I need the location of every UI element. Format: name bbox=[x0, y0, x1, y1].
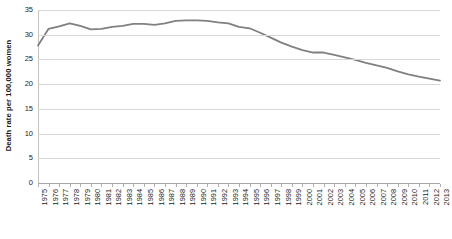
x-tick-label: 2004 bbox=[348, 189, 355, 205]
plot-area bbox=[38, 10, 440, 183]
x-tick-label: 1975 bbox=[41, 189, 48, 205]
x-tick-label: 1993 bbox=[232, 189, 239, 205]
x-tick-label: 2007 bbox=[380, 189, 387, 205]
x-tick-label: 1987 bbox=[168, 189, 175, 205]
x-tick-label: 2003 bbox=[337, 189, 344, 205]
x-tick-mark bbox=[292, 184, 293, 187]
x-tick-label: 1984 bbox=[136, 189, 143, 205]
x-tick-label: 2001 bbox=[316, 189, 323, 205]
x-tick-label: 1977 bbox=[62, 189, 69, 205]
x-tick-label: 1988 bbox=[179, 189, 186, 205]
x-tick-mark bbox=[133, 184, 134, 187]
death-rate-line bbox=[38, 20, 440, 80]
gridline bbox=[38, 158, 440, 159]
x-tick-mark bbox=[440, 184, 441, 187]
x-tick-label: 1982 bbox=[115, 189, 122, 205]
y-axis-tick-labels: 05101520253035 bbox=[15, 0, 35, 239]
x-tick-label: 1994 bbox=[242, 189, 249, 205]
x-tick-label: 2012 bbox=[433, 189, 440, 205]
gridline bbox=[38, 59, 440, 60]
x-tick-label: 1991 bbox=[210, 189, 217, 205]
x-tick-label: 1990 bbox=[200, 189, 207, 205]
x-tick-label: 2010 bbox=[411, 189, 418, 205]
x-tick-mark bbox=[101, 184, 102, 187]
x-tick-label: 1981 bbox=[105, 189, 112, 205]
x-tick-label: 1986 bbox=[158, 189, 165, 205]
gridline bbox=[38, 10, 440, 11]
x-tick-mark bbox=[408, 184, 409, 187]
y-tick-label: 5 bbox=[29, 155, 33, 163]
data-series-line bbox=[38, 10, 440, 183]
x-tick-mark bbox=[165, 184, 166, 187]
x-tick-label: 1978 bbox=[73, 189, 80, 205]
x-tick-label: 1995 bbox=[253, 189, 260, 205]
y-tick-label: 25 bbox=[25, 56, 33, 64]
x-tick-mark bbox=[260, 184, 261, 187]
x-tick-mark bbox=[123, 184, 124, 187]
x-tick-mark bbox=[345, 184, 346, 187]
x-axis-tick-labels: 1975197619771978197919801981198219831984… bbox=[38, 184, 440, 239]
y-tick-label: 35 bbox=[25, 6, 33, 14]
x-tick-label: 2002 bbox=[327, 189, 334, 205]
x-tick-label: 2005 bbox=[359, 189, 366, 205]
x-tick-mark bbox=[429, 184, 430, 187]
x-tick-mark bbox=[218, 184, 219, 187]
x-tick-label: 1976 bbox=[52, 189, 59, 205]
x-tick-mark bbox=[154, 184, 155, 187]
x-tick-mark bbox=[80, 184, 81, 187]
x-tick-mark bbox=[355, 184, 356, 187]
x-tick-mark bbox=[49, 184, 50, 187]
x-tick-label: 1996 bbox=[263, 189, 270, 205]
gridline bbox=[38, 35, 440, 36]
x-tick-label: 2013 bbox=[443, 189, 450, 205]
x-tick-mark bbox=[239, 184, 240, 187]
x-tick-label: 1992 bbox=[221, 189, 228, 205]
x-tick-mark bbox=[144, 184, 145, 187]
x-tick-mark bbox=[176, 184, 177, 187]
x-tick-mark bbox=[387, 184, 388, 187]
x-tick-mark bbox=[228, 184, 229, 187]
x-tick-label: 1979 bbox=[84, 189, 91, 205]
x-tick-label: 1989 bbox=[189, 189, 196, 205]
gridline bbox=[38, 134, 440, 135]
x-tick-mark bbox=[419, 184, 420, 187]
x-tick-mark bbox=[302, 184, 303, 187]
x-tick-label: 1999 bbox=[295, 189, 302, 205]
x-tick-label: 1998 bbox=[285, 189, 292, 205]
x-tick-label: 1980 bbox=[94, 189, 101, 205]
y-tick-label: 10 bbox=[25, 130, 33, 138]
y-tick-label: 15 bbox=[25, 105, 33, 113]
x-tick-mark bbox=[186, 184, 187, 187]
x-tick-mark bbox=[313, 184, 314, 187]
gridline bbox=[38, 109, 440, 110]
x-tick-label: 1985 bbox=[147, 189, 154, 205]
x-tick-label: 2006 bbox=[369, 189, 376, 205]
x-tick-mark bbox=[250, 184, 251, 187]
y-tick-label: 0 bbox=[29, 179, 33, 187]
x-tick-mark bbox=[59, 184, 60, 187]
x-tick-mark bbox=[271, 184, 272, 187]
x-tick-label: 2009 bbox=[401, 189, 408, 205]
x-tick-mark bbox=[112, 184, 113, 187]
x-tick-mark bbox=[38, 184, 39, 187]
x-tick-mark bbox=[366, 184, 367, 187]
x-tick-mark bbox=[91, 184, 92, 187]
x-tick-mark bbox=[377, 184, 378, 187]
x-tick-mark bbox=[281, 184, 282, 187]
y-tick-label: 20 bbox=[25, 80, 33, 88]
gridline bbox=[38, 84, 440, 85]
x-tick-mark bbox=[70, 184, 71, 187]
x-tick-label: 1997 bbox=[274, 189, 281, 205]
y-tick-label: 30 bbox=[25, 31, 33, 39]
x-tick-mark bbox=[398, 184, 399, 187]
x-tick-mark bbox=[324, 184, 325, 187]
y-axis-title-text: Death rate per 100,000 women bbox=[5, 39, 14, 151]
x-tick-label: 1983 bbox=[126, 189, 133, 205]
x-tick-label: 2011 bbox=[422, 189, 429, 205]
x-tick-mark bbox=[197, 184, 198, 187]
x-tick-mark bbox=[334, 184, 335, 187]
x-tick-mark bbox=[207, 184, 208, 187]
x-tick-label: 2000 bbox=[306, 189, 313, 205]
chart-container: Death rate per 100,000 women 05101520253… bbox=[0, 0, 452, 239]
x-tick-label: 2008 bbox=[390, 189, 397, 205]
